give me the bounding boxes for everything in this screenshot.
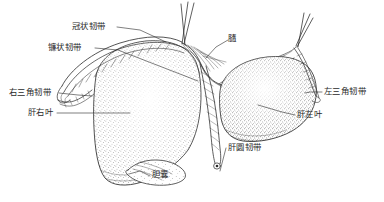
label-gallbladder: 胆囊 [152, 170, 169, 178]
liver-anatomy-figure: 冠状韧带 镰状韧带 右三角韧带 肝右叶 膸 左三角韧带 肝左叶 肝圆韧带 胆囊 [0, 0, 384, 202]
label-round-ligament-of-liver: 肝圆韧带 [228, 143, 262, 151]
leader-diaphragm [206, 40, 228, 58]
label-coronary-ligament: 冠状韧带 [72, 22, 106, 30]
round-ligament-knob [214, 163, 221, 169]
label-falciform-ligament: 镰状韧带 [48, 43, 82, 51]
left-lobe-shape [220, 56, 317, 141]
falciform-ligament-shape [200, 64, 221, 169]
suspension-threads-left [296, 13, 313, 47]
label-left-triangular-ligament: 左三角韧带 [324, 87, 366, 95]
label-right-triangular-ligament: 右三角韧带 [9, 88, 51, 96]
leader-coronary-ligament [117, 27, 166, 42]
suspension-threads-right [181, 2, 194, 45]
label-left-lobe-of-liver: 肝左叶 [297, 110, 322, 118]
label-diaphragm: 膸 [228, 34, 236, 42]
liver-illustration-svg [0, 0, 384, 202]
label-right-lobe-of-liver: 肝右叶 [28, 108, 53, 116]
